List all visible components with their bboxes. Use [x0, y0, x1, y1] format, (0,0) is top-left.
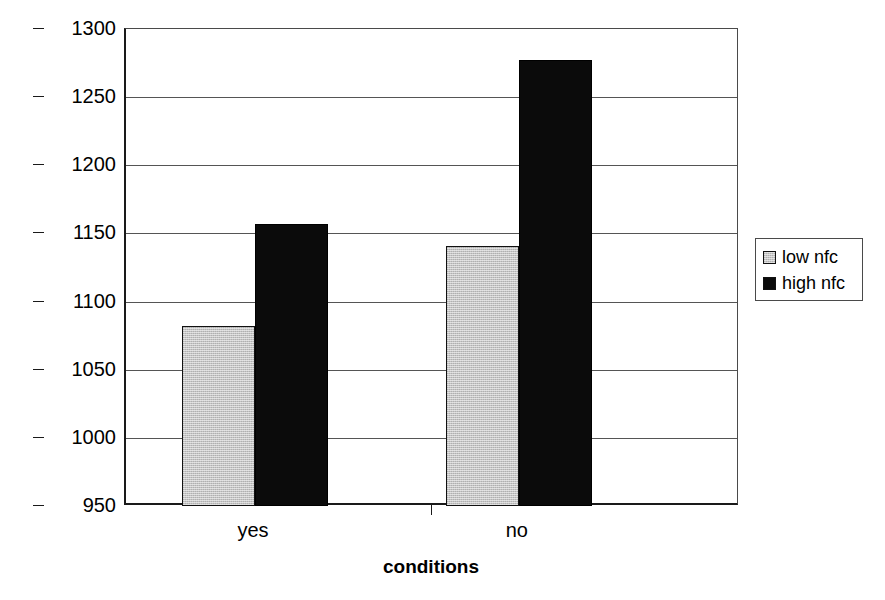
gridline	[126, 165, 737, 166]
y-axis-tick-mark	[33, 28, 44, 29]
y-axis-tick-labels: 9501000105011001150120012501300	[44, 28, 116, 505]
gridline	[126, 302, 737, 303]
y-axis-tick-mark	[33, 437, 44, 438]
y-axis-tick-mark	[33, 164, 44, 165]
y-axis-tick-label: 950	[46, 495, 116, 515]
bar-chart: RT (msc.) 950100010501100115012001250130…	[0, 0, 885, 600]
bar-yes-high-nfc[interactable]	[255, 224, 328, 506]
y-axis-tick-mark	[33, 505, 44, 506]
y-axis-tick-mark	[33, 232, 44, 233]
legend-label: low nfc	[782, 248, 838, 266]
y-axis-tick-mark	[33, 96, 44, 97]
legend-label: high nfc	[782, 274, 845, 292]
x-axis-tick-label: no	[437, 518, 597, 542]
plot-area	[124, 28, 738, 505]
legend-item[interactable]: low nfc	[763, 244, 862, 270]
y-axis-tick-mark	[33, 369, 44, 370]
x-axis-tick-label: yes	[173, 518, 333, 542]
y-axis-tick-mark	[33, 301, 44, 302]
x-axis-tick-mark	[431, 505, 432, 515]
y-axis-tick-label: 1250	[46, 86, 116, 106]
legend-swatch-low-nfc	[763, 251, 776, 264]
y-axis-tick-label: 1050	[46, 359, 116, 379]
gridline	[126, 97, 737, 98]
legend-swatch-high-nfc	[763, 277, 776, 290]
gridline	[126, 233, 737, 234]
bar-no-high-nfc[interactable]	[519, 60, 592, 506]
y-axis-tick-label: 1150	[46, 222, 116, 242]
y-axis-tick-label: 1300	[46, 18, 116, 38]
legend: low nfc high nfc	[755, 238, 863, 301]
bar-no-low-nfc[interactable]	[446, 246, 519, 506]
y-axis-tick-label: 1000	[46, 427, 116, 447]
y-axis-tick-label: 1200	[46, 154, 116, 174]
bar-yes-low-nfc[interactable]	[182, 326, 255, 506]
y-axis-tick-label: 1100	[46, 291, 116, 311]
x-axis-title: conditions	[124, 556, 738, 578]
legend-item[interactable]: high nfc	[763, 270, 862, 296]
